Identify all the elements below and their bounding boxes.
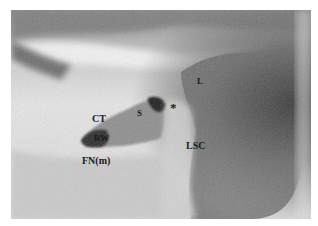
label-lsc: LSC xyxy=(186,141,205,151)
label-s: S xyxy=(137,109,142,118)
label-rw: RW xyxy=(94,134,109,143)
label-ct: CT xyxy=(92,114,106,124)
label-star: * xyxy=(170,101,177,114)
label-l: L xyxy=(197,77,203,86)
label-fn-m: FN(m) xyxy=(82,156,110,166)
anatomical-photo: CT S * L RW FN(m) LSC xyxy=(11,10,311,219)
photo-background xyxy=(11,10,311,219)
